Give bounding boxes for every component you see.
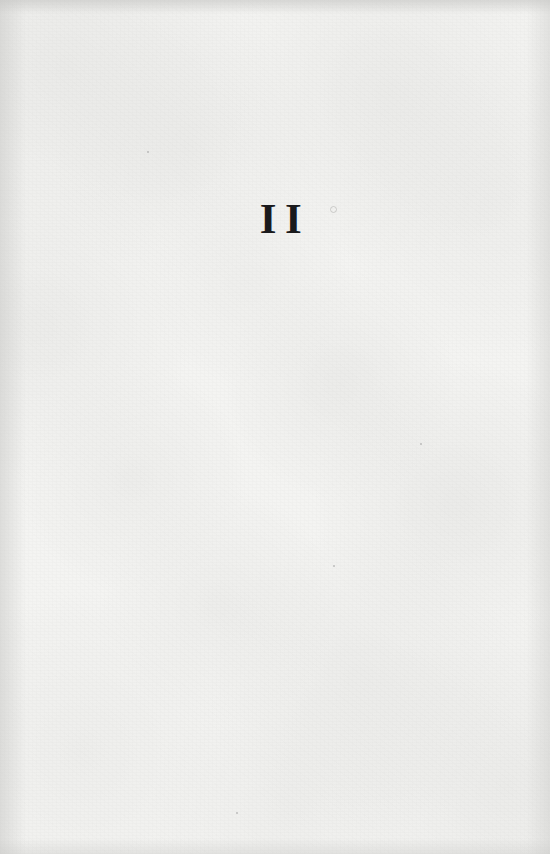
dust-speck-lower-centre	[333, 565, 335, 567]
dust-speck-right-of-numeral	[330, 206, 337, 213]
dust-speck-bottom-centre	[236, 812, 238, 814]
dust-speck-mid-right	[420, 443, 422, 445]
scan-edge-vignette	[0, 0, 550, 854]
scanned-page: II	[0, 0, 550, 854]
dust-speck-upper-left	[147, 151, 149, 153]
